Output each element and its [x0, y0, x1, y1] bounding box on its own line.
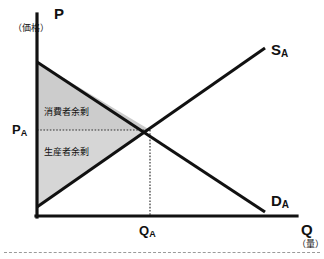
- x-axis-symbol: Q: [301, 222, 313, 237]
- equilibrium-quantity-label-subscript: A: [149, 229, 156, 239]
- equilibrium-quantity-label-main: Q: [139, 223, 149, 238]
- y-axis-caption: （価格）: [13, 24, 49, 33]
- supply-curve-label-main: S: [271, 41, 281, 58]
- x-axis-caption: （量）: [297, 240, 324, 249]
- consumer-surplus-label: 消費者余剰: [44, 108, 89, 117]
- equilibrium-quantity-label: QA: [139, 224, 156, 237]
- demand-curve-label-subscript: A: [282, 199, 289, 210]
- supply-demand-chart-svg: [0, 0, 324, 259]
- supply-curve-label-subscript: A: [281, 48, 288, 59]
- supply-demand-figure: P （価格） Q （量） SA DA PA QA 消費者余剰 生産者余剰: [0, 0, 324, 259]
- equilibrium-price-label: PA: [12, 123, 27, 136]
- demand-curve-label: DA: [271, 193, 289, 208]
- demand-curve-label-main: D: [271, 192, 282, 209]
- equilibrium-price-label-main: P: [12, 122, 21, 137]
- supply-curve-label: SA: [271, 42, 288, 57]
- equilibrium-price-label-subscript: A: [21, 128, 28, 138]
- y-axis-symbol: P: [54, 6, 64, 21]
- bottom-separator-rule: [4, 252, 320, 253]
- producer-surplus-label: 生産者余剰: [44, 148, 89, 157]
